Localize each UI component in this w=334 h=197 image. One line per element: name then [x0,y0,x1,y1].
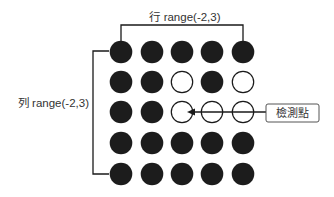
filled-circle [110,41,133,64]
filled-circle [141,71,164,94]
column-range-label: 行 range(-2,3) [149,11,220,23]
grid-diagram: 行 range(-2,3) 列 range(-2,3) 檢測點 [0,0,334,197]
filled-circle [171,163,194,186]
filled-circle [201,132,224,155]
empty-circle [232,71,253,92]
filled-circle [232,41,255,64]
row-range-label: 列 range(-2,3) [18,96,89,109]
circle-grid [110,41,255,186]
filled-circle [171,132,194,155]
filled-circle [201,71,224,94]
filled-circle [141,101,164,124]
filled-circle [141,41,164,64]
filled-circle [171,41,194,64]
filled-circle [232,163,255,186]
filled-circle [232,132,255,155]
callout-label: 檢測點 [276,106,309,120]
filled-circle [110,101,133,124]
filled-circle [141,132,164,155]
row-range-bracket: 列 range(-2,3) [18,51,109,174]
filled-circle [110,132,133,155]
filled-circle [110,71,133,94]
filled-circle [141,163,164,186]
filled-circle [110,163,133,186]
empty-circle [171,71,192,92]
column-range-bracket: 行 range(-2,3) [121,11,243,41]
filled-circle [201,41,224,64]
filled-circle [201,163,224,186]
